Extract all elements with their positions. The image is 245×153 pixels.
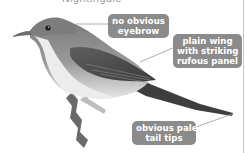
bird-eye	[45, 25, 50, 30]
page-edge-rule	[243, 0, 244, 153]
bird-head	[28, 18, 76, 36]
leader-line-wing	[140, 47, 175, 62]
callout-text: plain wing	[177, 36, 238, 46]
callout-text: with striking	[177, 46, 238, 56]
callout-text: obvious pale	[136, 123, 192, 133]
perch-branch	[66, 90, 106, 148]
callout-text: no obvious	[112, 16, 165, 26]
callout-text: rufous panel	[177, 56, 238, 66]
callout-tail: obvious pale tail tips	[132, 121, 196, 145]
callout-text: tail tips	[136, 133, 192, 143]
field-guide-figure: Nightingale	[0, 0, 245, 153]
bird-beak	[13, 31, 32, 37]
callout-text: eyebrow	[112, 26, 165, 36]
callout-eyebrow: no obvious eyebrow	[108, 14, 169, 38]
callout-wing: plain wing with striking rufous panel	[173, 34, 242, 68]
